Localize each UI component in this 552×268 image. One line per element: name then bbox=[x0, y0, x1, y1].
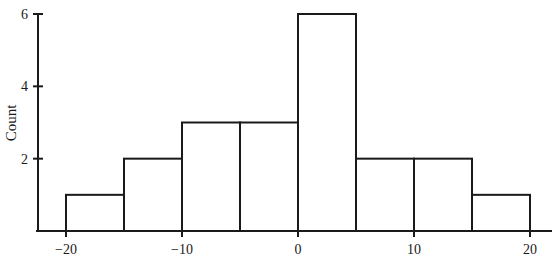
x-tick-label: 0 bbox=[295, 242, 302, 257]
y-axis-label: Count bbox=[3, 104, 19, 142]
x-tick-label: 20 bbox=[523, 242, 537, 257]
histogram-bar bbox=[182, 123, 240, 232]
x-axis-ticks: −20−1001020 bbox=[55, 231, 537, 257]
histogram-bar bbox=[124, 159, 182, 231]
histogram-chart: 246 −20−1001020 Count bbox=[0, 0, 552, 268]
histogram-bar bbox=[356, 159, 414, 231]
x-tick-label: −10 bbox=[171, 242, 193, 257]
histogram-bar bbox=[298, 14, 356, 231]
histogram-bar bbox=[472, 195, 530, 231]
y-axis-ticks: 246 bbox=[21, 7, 43, 167]
histogram-bar bbox=[240, 123, 298, 232]
x-tick-label: −20 bbox=[55, 242, 77, 257]
y-tick-label: 2 bbox=[21, 152, 28, 167]
histogram-bar bbox=[414, 159, 472, 231]
x-tick-label: 10 bbox=[407, 242, 421, 257]
y-tick-label: 4 bbox=[21, 79, 28, 94]
histogram-bars bbox=[66, 14, 530, 231]
histogram-bar bbox=[66, 195, 124, 231]
y-tick-label: 6 bbox=[21, 7, 28, 22]
